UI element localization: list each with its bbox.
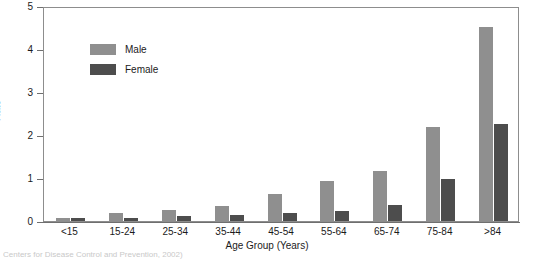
bar-female-84 bbox=[494, 124, 508, 221]
legend-item-male: Male bbox=[90, 42, 158, 56]
x-axis-tick-label: 25-34 bbox=[162, 226, 188, 238]
y-axis-tick-label: 4 bbox=[9, 45, 33, 55]
bar-male-15-24 bbox=[109, 213, 123, 221]
x-axis-tick-label: 15-24 bbox=[110, 226, 136, 238]
bar-male-55-64 bbox=[320, 181, 334, 221]
footnote-text: Centers for Disease Control and Preventi… bbox=[3, 250, 303, 259]
legend-item-female: Female bbox=[90, 62, 158, 76]
bar-male-25-34 bbox=[162, 210, 176, 221]
bar-male-35-44 bbox=[215, 206, 229, 221]
legend-swatch-female-icon bbox=[90, 64, 116, 75]
legend-label-male: Male bbox=[125, 44, 147, 55]
bar-female-15-24 bbox=[124, 218, 138, 221]
bar-female-35-44 bbox=[230, 215, 244, 221]
x-axis-line bbox=[43, 222, 520, 223]
y-axis-title: Rate bbox=[0, 100, 2, 121]
bar-female-75-84 bbox=[441, 179, 455, 221]
x-axis-tick-label: 45-54 bbox=[268, 226, 294, 238]
bar-male-15 bbox=[56, 218, 70, 221]
bar-male-84 bbox=[479, 27, 493, 221]
legend: Male Female bbox=[90, 42, 158, 82]
y-axis-tick-label: 1 bbox=[9, 174, 33, 184]
bars-layer bbox=[44, 8, 518, 221]
y-axis-tick-label: 2 bbox=[9, 131, 33, 141]
x-axis-tick-label: >84 bbox=[484, 226, 501, 238]
plot-area bbox=[43, 7, 519, 222]
bar-male-45-54 bbox=[268, 194, 282, 221]
legend-label-female: Female bbox=[125, 64, 158, 75]
x-axis-tick-label: 75-84 bbox=[427, 226, 453, 238]
x-axis-tick-label: 35-44 bbox=[215, 226, 241, 238]
x-axis-tick-label: 55-64 bbox=[321, 226, 347, 238]
bar-female-45-54 bbox=[283, 213, 297, 221]
x-axis-labels: <1515-2425-3435-4445-5455-6465-7475-84>8… bbox=[43, 226, 519, 240]
y-axis-tick-label: 3 bbox=[9, 88, 33, 98]
bar-chart: Rate 012345 <1515-2425-3435-4445-5455-64… bbox=[0, 0, 534, 259]
bar-female-15 bbox=[71, 218, 85, 221]
bar-female-25-34 bbox=[177, 216, 191, 221]
bar-male-75-84 bbox=[426, 127, 440, 221]
bar-male-65-74 bbox=[373, 171, 387, 221]
bar-female-65-74 bbox=[388, 205, 402, 221]
bar-female-55-64 bbox=[335, 211, 349, 221]
y-axis-labels: 012345 bbox=[5, 0, 33, 259]
legend-swatch-male-icon bbox=[90, 44, 116, 55]
y-axis-tick-label: 0 bbox=[9, 217, 33, 227]
x-axis-tick-label: 65-74 bbox=[374, 226, 400, 238]
x-axis-tick-label: <15 bbox=[61, 226, 78, 238]
y-axis-tick-label: 5 bbox=[9, 2, 33, 12]
